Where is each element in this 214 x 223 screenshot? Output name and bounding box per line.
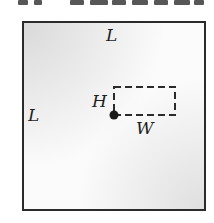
label-top-side-L: L [106,27,117,44]
dashed-rectangle [114,87,175,115]
label-width-W: W [136,120,153,137]
anchor-point [110,111,119,120]
label-height-H: H [92,93,107,110]
label-left-side-L: L [28,107,39,124]
